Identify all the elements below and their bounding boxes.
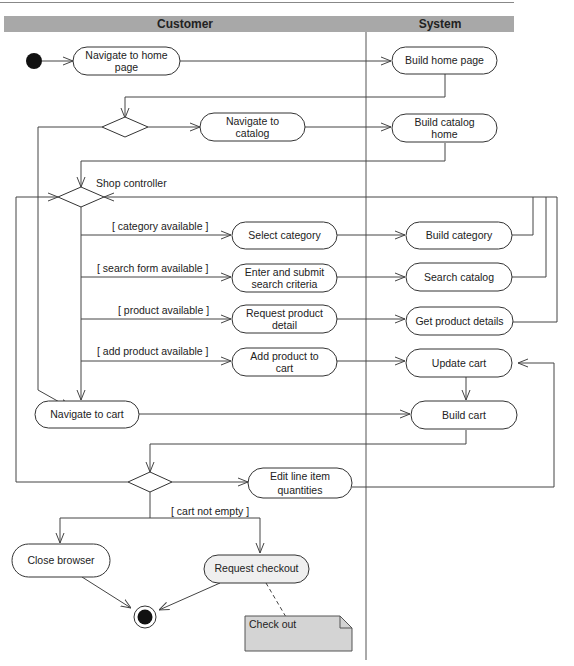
- svg-text:Get product details: Get product details: [415, 315, 503, 327]
- activity-navigate-to-cart: Navigate to cart: [35, 401, 139, 428]
- svg-text:Request checkout: Request checkout: [214, 562, 298, 574]
- activity-select-category: Select category: [232, 222, 337, 249]
- activity-edit-line-item-quantities: Edit line item quantities: [248, 468, 352, 498]
- activity-request-checkout: Request checkout: [204, 555, 309, 583]
- guard-category: [ category available ]: [112, 220, 208, 232]
- guard-product: [ product available ]: [118, 304, 209, 316]
- svg-text:Build cart: Build cart: [442, 409, 486, 421]
- svg-text:Request product: Request product: [246, 307, 323, 319]
- svg-text:Build category: Build category: [426, 229, 493, 241]
- svg-text:Check out: Check out: [249, 618, 296, 630]
- svg-text:detail: detail: [272, 319, 297, 331]
- activity-get-product-details: Get product details: [406, 307, 513, 335]
- svg-text:Enter and submit: Enter and submit: [245, 266, 324, 278]
- activity-close-browser: Close browser: [12, 544, 110, 577]
- initial-node: [26, 53, 42, 69]
- decision-node-cart: [128, 472, 172, 492]
- svg-text:page: page: [115, 61, 139, 73]
- activity-search-catalog: Search catalog: [406, 263, 512, 291]
- note-check-out: Check out: [245, 616, 352, 651]
- activity-enter-search: Enter and submit search criteria: [232, 264, 337, 292]
- activity-update-cart: Update cart: [406, 349, 512, 377]
- svg-text:Edit line item: Edit line item: [270, 470, 330, 482]
- svg-text:Navigate to: Navigate to: [226, 115, 279, 127]
- decision-node-catalog: [102, 117, 148, 137]
- decision-node-shop-controller: [58, 187, 104, 207]
- activity-diagram: Navigate to home page Build home page Na…: [0, 0, 574, 666]
- activity-add-product-to-cart: Add product to cart: [232, 348, 337, 376]
- svg-text:Navigate to home: Navigate to home: [85, 49, 167, 61]
- guard-search: [ search form available ]: [97, 262, 209, 274]
- activity-navigate-home: Navigate to home page: [73, 47, 180, 75]
- final-node-core: [138, 610, 153, 625]
- svg-text:Build home page: Build home page: [405, 54, 484, 66]
- activity-build-cart: Build cart: [411, 401, 517, 429]
- activity-build-category: Build category: [406, 222, 512, 249]
- svg-text:quantities: quantities: [278, 484, 323, 496]
- svg-text:Add product to: Add product to: [250, 350, 318, 362]
- guard-add-product: [ add product available ]: [97, 345, 209, 357]
- svg-text:home: home: [431, 128, 457, 140]
- activity-build-catalog-home: Build catalog home: [392, 114, 497, 142]
- activity-build-home-page: Build home page: [392, 47, 497, 74]
- svg-text:catalog: catalog: [236, 127, 270, 139]
- svg-text:Update cart: Update cart: [432, 357, 486, 369]
- activity-navigate-catalog: Navigate to catalog: [200, 113, 305, 141]
- svg-text:Navigate to cart: Navigate to cart: [50, 408, 124, 420]
- svg-text:Select category: Select category: [248, 229, 321, 241]
- guard-cart-not-empty: [ cart not empty ]: [171, 505, 249, 517]
- svg-text:search criteria: search criteria: [252, 278, 318, 290]
- edges: [16, 61, 557, 617]
- label-shop-controller: Shop controller: [96, 177, 167, 189]
- svg-text:Search catalog: Search catalog: [424, 271, 494, 283]
- svg-text:cart: cart: [276, 362, 294, 374]
- svg-text:Close browser: Close browser: [27, 554, 95, 566]
- activity-request-product-detail: Request product detail: [232, 305, 337, 333]
- svg-text:Build catalog: Build catalog: [414, 116, 474, 128]
